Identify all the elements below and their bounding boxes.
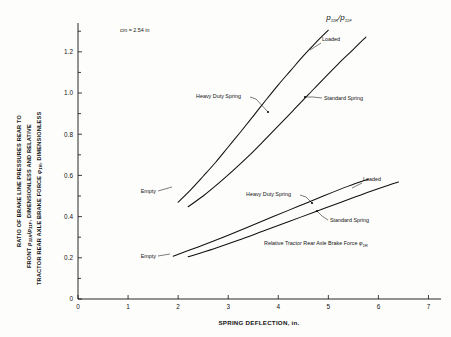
- x-tick-label: 4: [276, 303, 280, 310]
- y-label2-tail: , DIMENSIONLESS AND RELATIVE: [26, 124, 32, 221]
- caption-relative-brake-force: Relative Tractor Rear Axle Brake Force φ…: [264, 240, 368, 248]
- y-tick-label: 0: [69, 295, 73, 302]
- leader-lower-empty: [158, 254, 170, 256]
- figure-container: RATIO OF BRAKE LINE PRESSURES REAR TO FR…: [0, 0, 451, 337]
- x-tick-label: 2: [176, 303, 180, 310]
- x-tick-label: 7: [427, 303, 431, 310]
- y-tick-label: 1.2: [64, 48, 73, 55]
- annotation-upper-loaded: Loaded: [322, 36, 340, 42]
- marker-upper-heavy-duty: [267, 111, 269, 113]
- x-tick-label: 0: [76, 303, 80, 310]
- x-axis-label: SPRING DEFLECTION, in.: [218, 319, 299, 326]
- caption-relative-sub: 1R: [363, 243, 368, 248]
- marker-lower-heavy-duty: [311, 202, 313, 204]
- x-tick-label: 1: [126, 303, 130, 310]
- y-axis-label: RATIO OF BRAKE LINE PRESSURES REAR TO FR…: [16, 112, 43, 285]
- annotation-lower-standard: Standard Spring: [330, 217, 369, 223]
- y-tick-label: 1.0: [64, 89, 73, 96]
- y-label2-front: FRONT: [26, 246, 32, 268]
- x-tick-label: 6: [377, 303, 381, 310]
- x-tick-label: 5: [327, 303, 331, 310]
- formula-sub2: 11F: [345, 18, 352, 23]
- y-tick-label: 0.8: [64, 131, 73, 138]
- leader-lower-standard: [317, 211, 328, 220]
- formula-pressure-ratio: p11R/p11F: [325, 13, 352, 23]
- y-tick-label: 0.2: [64, 254, 73, 261]
- y-label2-sub1: 11R: [28, 234, 33, 242]
- annotation-lower-empty: Empty: [141, 253, 157, 259]
- y-axis-label-line1: RATIO OF BRAKE LINE PRESSURES REAR TO: [16, 114, 22, 247]
- x-axis-ticks: 01234567: [76, 295, 430, 310]
- curve-upper-1: [188, 37, 366, 207]
- y-axis-label-line2: FRONT p11R/p11F, DIMENSIONLESS AND RELAT…: [26, 124, 33, 268]
- y-label3-tail: , DIMENSIONLESS: [36, 112, 42, 164]
- annotation-lower-heavy-duty: Heavy Duty Spring: [246, 191, 291, 197]
- y-label3-head: TRACTOR REAR AXLE BRAKE FORCE: [36, 174, 42, 285]
- marker-upper-standard: [304, 96, 306, 98]
- formula-sub1: 11R: [331, 18, 338, 23]
- y-tick-label: 0.4: [64, 213, 73, 220]
- marker-lower-standard: [316, 210, 318, 212]
- units-note: cm = 2.54 in: [120, 27, 150, 33]
- caption-relative-text: Relative Tractor Rear Axle Brake Force: [264, 240, 359, 246]
- annotation-upper-standard: Standard Spring: [324, 95, 363, 101]
- x-tick-label: 3: [226, 303, 230, 310]
- leader-upper-standard: [305, 97, 322, 98]
- leader-upper-empty: [158, 187, 172, 191]
- y-tick-label: 0.6: [64, 172, 73, 179]
- leader-upper-heavy-duty: [250, 97, 268, 112]
- chart-svg: RATIO OF BRAKE LINE PRESSURES REAR TO FR…: [0, 0, 451, 337]
- curve-upper-0: [178, 30, 328, 202]
- annotation-upper-empty: Empty: [141, 188, 157, 194]
- annotation-lower-loaded: Loaded: [363, 176, 381, 182]
- y-axis-ticks: 00.20.40.60.81.01.2: [64, 31, 82, 302]
- annotation-upper-heavy-duty: Heavy Duty Spring: [196, 93, 241, 99]
- y-axis-label-line3: TRACTOR REAR AXLE BRAKE FORCE φ1R, DIMEN…: [36, 112, 43, 285]
